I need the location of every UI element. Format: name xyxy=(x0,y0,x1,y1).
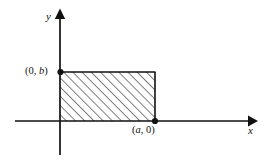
y-intercept-point-label: (0, b) xyxy=(25,66,48,77)
x-intercept-point-label: (a, 0) xyxy=(132,125,155,136)
y-intercept-label-prefix: (0, xyxy=(25,65,39,76)
y-axis-label: y xyxy=(46,11,51,22)
figure-canvas xyxy=(0,0,269,167)
y-intercept-dot xyxy=(57,69,63,75)
rectangle-hatch-fill xyxy=(60,72,155,121)
x-axis-label: x xyxy=(248,125,253,136)
y-intercept-label-suffix: ) xyxy=(44,65,48,76)
coordinate-plane-figure: y x (0, b) (a, 0) xyxy=(0,0,269,167)
x-intercept-label-suffix: , 0) xyxy=(141,124,155,135)
